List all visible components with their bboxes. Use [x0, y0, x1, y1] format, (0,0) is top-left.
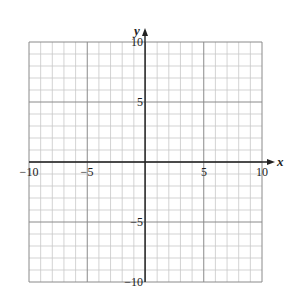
x-tick-label: 10	[256, 165, 268, 179]
x-tick-label: −10	[20, 165, 39, 179]
coordinate-plane: x y −10 −5 5 10 10 5 −5 −10	[0, 0, 292, 298]
x-axis-label: x	[276, 154, 284, 169]
axes: x y	[29, 23, 284, 282]
y-tick-label: −10	[124, 275, 143, 289]
x-tick-label: 5	[201, 165, 207, 179]
y-tick-label: −5	[130, 215, 143, 229]
x-axis-arrow-icon	[267, 159, 275, 165]
y-tick-label: 10	[131, 35, 143, 49]
x-tick-label: −5	[81, 165, 94, 179]
y-tick-label: 5	[137, 95, 143, 109]
